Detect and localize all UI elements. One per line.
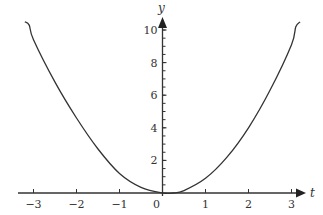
y-tick-label: 8 xyxy=(151,57,158,70)
x-tick-label: −1 xyxy=(111,198,127,211)
x-tick-label: 3 xyxy=(288,198,295,211)
x-tick-label: 2 xyxy=(245,198,252,211)
y-tick-label: 4 xyxy=(151,122,158,135)
x-tick-label: 1 xyxy=(202,198,209,211)
y-tick-label: 10 xyxy=(144,24,158,37)
y-axis-label: y xyxy=(157,1,165,15)
x-axis-label: t xyxy=(310,186,315,200)
y-axis-arrow-icon xyxy=(158,17,167,28)
x-tick-label: 0 xyxy=(153,198,160,211)
y-tick-label: 2 xyxy=(151,154,158,167)
x-tick-label: −3 xyxy=(25,198,41,211)
y-tick-label: 6 xyxy=(151,89,158,102)
x-axis-arrow-icon xyxy=(296,189,306,198)
axes xyxy=(18,17,306,198)
chart-canvas: −3−2−10123246810 t y xyxy=(0,0,323,215)
x-tick-label: −2 xyxy=(68,198,84,211)
